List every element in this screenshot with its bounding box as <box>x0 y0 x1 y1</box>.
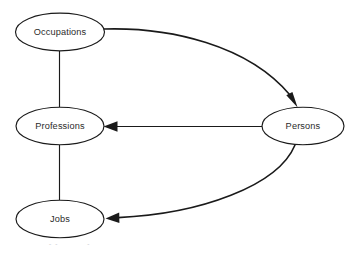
edge-persons-professions <box>104 121 263 131</box>
node-professions[interactable]: Professions <box>16 107 104 145</box>
node-label-professions: Professions <box>35 121 85 131</box>
node-label-occupations: Occupations <box>34 27 87 37</box>
node-label-jobs: Jobs <box>50 214 70 224</box>
arrow-head <box>104 121 118 131</box>
arrow-head <box>286 92 297 108</box>
graph-svg: Occupations Professions Jobs Persons <box>0 0 355 253</box>
edge-curve <box>118 145 295 218</box>
node-persons[interactable]: Persons <box>262 107 344 145</box>
edge-curve <box>104 29 290 95</box>
edge-occupations-persons <box>104 29 298 108</box>
diagram-canvas: Occupations Professions Jobs Persons cli… <box>0 0 355 253</box>
arrow-head <box>106 213 120 223</box>
edge-persons-jobs <box>106 145 296 223</box>
node-occupations[interactable]: Occupations <box>16 13 105 51</box>
node-label-persons: Persons <box>286 121 321 131</box>
clipped-caption: clipped caption line <box>0 244 355 253</box>
node-jobs[interactable]: Jobs <box>16 200 104 238</box>
